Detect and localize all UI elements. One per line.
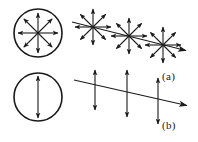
burst-arrow-a2-45 [129, 23, 142, 36]
cross-section-circle-a [14, 9, 62, 57]
burst-arrow-a3-45 [163, 32, 176, 45]
burst-arrow-a1-45 [93, 14, 106, 27]
panel-label-b: (b) [162, 119, 176, 131]
radial-arrow-a-45 [38, 19, 52, 33]
burst-arrow-a1-225 [80, 27, 93, 40]
star-burst-a-2 [111, 18, 147, 54]
star-burst-a-1 [75, 9, 111, 45]
radial-arrow-a-135 [24, 19, 38, 33]
radial-arrow-a-225 [24, 33, 38, 47]
polarization-figure: (a) (b) [0, 0, 198, 142]
burst-arrow-a2-225 [116, 36, 129, 49]
radial-arrow-group-a [18, 13, 58, 53]
radial-arrow-a-315 [38, 33, 52, 47]
burst-arrow-a3-225 [150, 45, 163, 58]
panel-label-a: (a) [162, 70, 175, 82]
star-burst-a-3 [145, 27, 181, 63]
propagation-axis-b [74, 80, 187, 106]
cross-section-circle-b [14, 73, 62, 121]
